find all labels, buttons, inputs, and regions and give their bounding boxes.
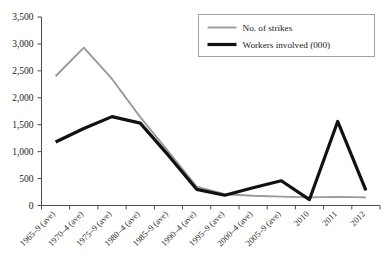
chart-legend: No. of strikesWorkers involved (000)	[199, 15, 375, 57]
y-tick-label: 0	[29, 201, 34, 211]
y-tick-label: 2,500	[12, 66, 34, 76]
x-tick-label: 2012	[348, 209, 367, 228]
y-tick-label: 500	[19, 174, 34, 184]
y-tick-label: 3,000	[12, 39, 34, 49]
data-series-group	[56, 48, 366, 200]
x-axis-ticks	[42, 206, 381, 210]
line-chart: 05001,0001,5002,0002,5003,0003,500 1965–…	[0, 0, 386, 265]
y-axis-ticks	[38, 17, 42, 206]
legend-box	[199, 15, 375, 57]
chart-container: 05001,0001,5002,0002,5003,0003,500 1965–…	[0, 0, 386, 265]
y-axis: 05001,0001,5002,0002,5003,0003,500	[12, 12, 41, 211]
y-axis-tick-labels: 05001,0001,5002,0002,5003,0003,500	[12, 12, 34, 211]
series-line-workers-involved-000	[56, 117, 366, 200]
legend-label: Workers involved (000)	[243, 40, 331, 50]
x-tick-label: 2010	[292, 209, 311, 228]
y-tick-label: 1,500	[12, 120, 34, 130]
y-tick-label: 1,000	[12, 147, 34, 157]
y-tick-label: 2,000	[12, 93, 34, 103]
x-tick-label: 2011	[320, 209, 339, 228]
legend-label: No. of strikes	[243, 23, 293, 33]
x-axis: 1965–9 (ave)1970–4 (ave)1975–9 (ave)1980…	[18, 206, 380, 249]
x-axis-tick-labels: 1965–9 (ave)1970–4 (ave)1975–9 (ave)1980…	[18, 209, 368, 248]
y-tick-label: 3,500	[12, 12, 34, 22]
